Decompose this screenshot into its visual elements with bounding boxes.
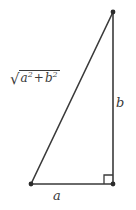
term2-exponent: 2 [53,70,58,79]
plus-operator: + [33,71,45,85]
right-triangle-figure: a b √a2+b2 [0,0,136,210]
vertex-dot-top [111,10,116,15]
hypotenuse-length-label: √a2+b2 [10,70,60,87]
vertex-dot-bottom-left [29,182,34,187]
vertex-dot-bottom-right [111,182,116,187]
vertical-length-label: b [116,96,124,109]
hypotenuse-segment [31,12,113,184]
base-length-label: a [0,189,114,202]
term1-base: a [21,71,28,85]
term2-base: b [45,71,53,85]
radicand: a2+b2 [19,70,60,84]
radical-expression: √a2+b2 [10,70,60,87]
